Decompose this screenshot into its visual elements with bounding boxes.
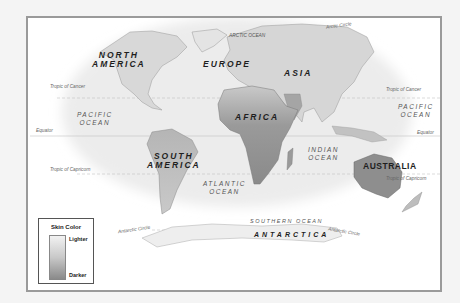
label-africa: AFRICA [235,113,279,122]
label-atlantic-ocean: ATLANTICOCEAN [203,180,246,195]
label-asia: ASIA [284,69,312,78]
label-antarctica: ANTARCTICA [254,230,329,239]
skin-color-legend-box: Skin Color Lighter Darker [38,218,94,284]
label-north-america: NORTHAMERICA [92,51,146,69]
label-southern-ocean: SOUTHERN OCEAN [250,218,323,226]
label-arctic-ocean: ARCTIC OCEAN [229,32,265,40]
label-tropic-of-capricorn-east: Tropic of Capricorn [386,176,426,181]
label-pacific-ocean-west: PACIFICOCEAN [77,111,113,126]
label-pacific-ocean-east: PACIFICOCEAN [398,103,434,118]
legend-darker-label: Darker [69,272,86,278]
label-tropic-of-cancer-east: Tropic of Cancer [386,87,421,92]
legend-gradient-bar [49,235,66,280]
label-europe: EUROPE [203,60,251,69]
label-tropic-of-cancer-west: Tropic of Cancer [50,84,85,89]
label-tropic-of-capricorn-west: Tropic of Capricorn [50,167,90,172]
legend-title: Skin Color [39,224,93,230]
label-equator-east: Equator [417,130,434,135]
label-indian-ocean: INDIANOCEAN [308,146,339,161]
new-zealand-landmass [402,192,422,212]
legend-lighter-label: Lighter [69,236,88,242]
label-australia: AUSTRALIA [363,162,417,171]
label-equator-west: Equator [36,128,53,133]
label-south-america: SOUTHAMERICA [147,152,201,170]
